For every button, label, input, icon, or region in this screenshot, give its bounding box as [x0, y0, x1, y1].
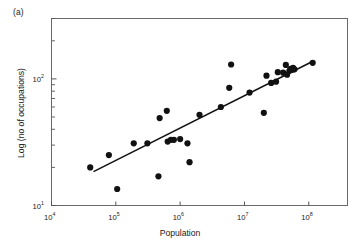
x-tick-label: 104: [44, 211, 55, 222]
data-point: [218, 104, 224, 110]
data-point: [261, 110, 267, 116]
figure-panel: (a) 104105106107108 101102 Population Lo…: [0, 0, 360, 251]
data-point: [177, 136, 183, 142]
data-point: [114, 186, 120, 192]
data-point: [228, 61, 234, 67]
data-point: [275, 69, 281, 75]
data-point: [273, 79, 279, 85]
data-point: [226, 85, 232, 91]
data-point: [144, 140, 150, 146]
data-point: [171, 137, 177, 143]
y-axis-minor-ticks: [52, 19, 56, 168]
data-point-group: [87, 60, 316, 192]
y-axis-ticks: 101102: [33, 73, 57, 210]
data-point: [131, 140, 137, 146]
data-point: [164, 108, 170, 114]
data-point: [157, 115, 163, 121]
data-point: [196, 112, 202, 118]
data-point: [184, 140, 190, 146]
data-point: [310, 60, 316, 66]
trend-line: [94, 62, 312, 172]
data-point: [263, 73, 269, 79]
y-tick-label: 102: [33, 73, 44, 84]
scatter-plot: 104105106107108 101102: [0, 0, 360, 251]
data-point: [186, 159, 192, 165]
data-point: [106, 152, 112, 158]
data-point: [87, 164, 93, 170]
data-point: [246, 89, 252, 95]
x-axis-title: Population: [0, 228, 360, 238]
data-point: [291, 66, 297, 72]
x-tick-label: 107: [237, 211, 248, 222]
regression-line: [94, 62, 312, 172]
x-tick-label: 105: [108, 211, 119, 222]
x-tick-label: 108: [301, 211, 312, 222]
x-tick-label: 106: [173, 211, 184, 222]
y-axis-title: Log (no of occupations): [16, 48, 26, 178]
data-point: [155, 173, 161, 179]
y-tick-label: 101: [33, 200, 44, 211]
x-axis-ticks: 104105106107108: [44, 202, 313, 222]
